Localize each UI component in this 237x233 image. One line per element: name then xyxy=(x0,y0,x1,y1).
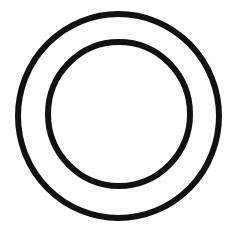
background xyxy=(0,0,237,233)
concentric-circles-diagram xyxy=(0,0,237,233)
